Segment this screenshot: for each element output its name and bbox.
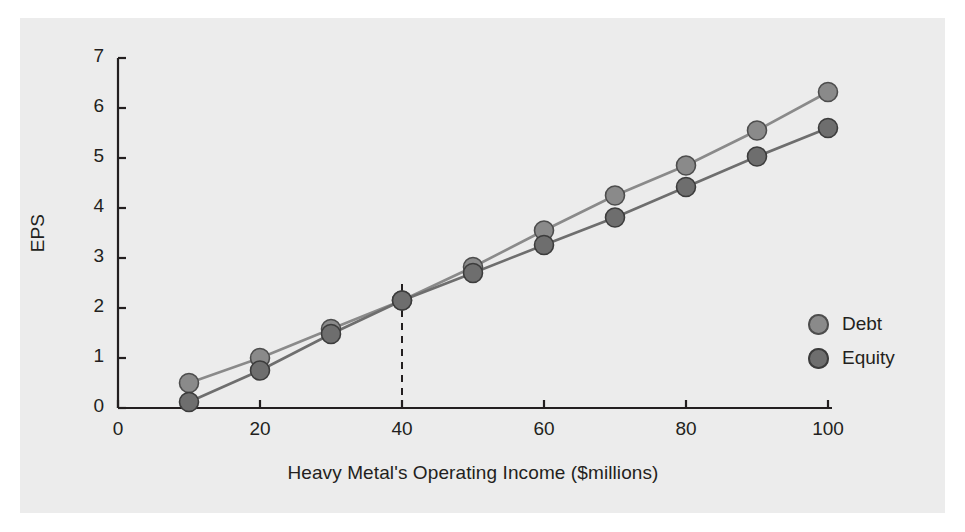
y-tick-label-1: 1 bbox=[74, 345, 104, 367]
x-axis-label: Heavy Metal's Operating Income ($million… bbox=[118, 462, 828, 484]
legend-marker-circle-icon bbox=[808, 348, 829, 369]
legend-label: Equity bbox=[842, 347, 895, 369]
axis-lines bbox=[118, 58, 832, 408]
y-tick-label-6: 6 bbox=[74, 95, 104, 117]
y-tick-label-3: 3 bbox=[74, 245, 104, 267]
x-tick-label-0: 0 bbox=[96, 418, 140, 440]
legend-label: Debt bbox=[842, 313, 882, 335]
x-tick-label-40: 40 bbox=[380, 418, 424, 440]
chart-plot-area bbox=[0, 0, 965, 532]
x-tick-label-100: 100 bbox=[806, 418, 850, 440]
legend-item-equity[interactable]: Equity bbox=[808, 347, 895, 369]
y-tick-label-5: 5 bbox=[74, 145, 104, 167]
x-tick-label-60: 60 bbox=[522, 418, 566, 440]
x-tick-label-20: 20 bbox=[238, 418, 282, 440]
figure-root: EPS Heavy Metal's Operating Income ($mil… bbox=[0, 0, 965, 532]
y-axis-label: EPS bbox=[27, 183, 49, 283]
y-tick-label-0: 0 bbox=[74, 395, 104, 417]
legend-item-debt[interactable]: Debt bbox=[808, 313, 882, 335]
y-tick-label-4: 4 bbox=[74, 195, 104, 217]
x-tick-label-80: 80 bbox=[664, 418, 708, 440]
y-tick-label-7: 7 bbox=[74, 45, 104, 67]
legend-marker-circle-icon bbox=[808, 314, 829, 335]
y-tick-label-2: 2 bbox=[74, 295, 104, 317]
data-series-layer bbox=[180, 83, 838, 412]
